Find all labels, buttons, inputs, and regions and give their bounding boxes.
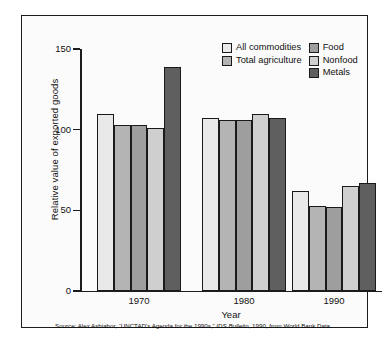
bar-1990-all-commodities xyxy=(292,191,309,291)
y-axis-tick-label: 0 xyxy=(25,286,71,296)
bar-1990-total-agriculture xyxy=(309,206,326,292)
x-axis-label-1980: 1980 xyxy=(214,295,274,306)
bar-1990-metals xyxy=(359,183,376,291)
bar-1980-total-agriculture xyxy=(219,120,236,291)
bar-1980-nonfood xyxy=(252,114,269,291)
legend-entry-nonfood: Nonfood xyxy=(309,56,358,66)
bar-1970-metals xyxy=(164,67,181,291)
chart-figure-frame: Relative value of exported goods 0501001… xyxy=(21,15,368,328)
legend-label: All commodities xyxy=(236,43,301,52)
y-axis-tick-label: 150 xyxy=(25,44,71,54)
legend-entry-metals: Metals xyxy=(309,68,358,78)
x-axis-title: Year xyxy=(80,309,382,320)
bar-1980-all-commodities xyxy=(202,118,219,291)
legend-entry-food: Food xyxy=(309,43,358,53)
x-axis-label-1970: 1970 xyxy=(109,295,169,306)
y-axis-tick xyxy=(73,210,80,211)
legend-label: Nonfood xyxy=(323,56,358,65)
legend-swatch-icon xyxy=(309,56,319,66)
bar-1970-nonfood xyxy=(147,128,164,291)
legend-entry-all-commodities: All commodities xyxy=(222,43,302,53)
legend-label: Total agriculture xyxy=(236,56,302,65)
y-axis-tick-label: 100 xyxy=(25,125,71,135)
y-axis-tick xyxy=(73,290,80,291)
bar-1990-food xyxy=(326,207,343,291)
x-axis-label-1990: 1990 xyxy=(304,295,364,306)
y-axis-tick-labels: 050100150 xyxy=(22,16,71,329)
bar-1970-food xyxy=(131,125,148,291)
legend-swatch-icon xyxy=(222,56,232,66)
legend-swatch-icon xyxy=(309,43,319,53)
source-journal-name: IDS Bulletin xyxy=(216,322,248,329)
y-axis-tick-label: 50 xyxy=(25,205,71,215)
y-axis-tick xyxy=(73,48,80,49)
bar-1970-total-agriculture xyxy=(114,125,131,291)
bar-1970-all-commodities xyxy=(97,114,114,291)
bar-1980-metals xyxy=(269,118,286,291)
legend-label: Food xyxy=(323,43,344,52)
source-note: Source: Alex Ashiabor, “UNCTAD's Agenda … xyxy=(55,322,381,329)
legend-swatch-icon xyxy=(222,43,232,53)
legend-entry-total-agriculture: Total agriculture xyxy=(222,56,302,66)
chart-legend: All commoditiesFoodTotal agricultureNonf… xyxy=(222,43,358,78)
legend-spacer xyxy=(222,68,302,78)
plot-area xyxy=(80,49,380,291)
bar-1980-food xyxy=(236,120,253,291)
y-axis-tick xyxy=(73,129,80,130)
legend-label: Metals xyxy=(323,68,350,77)
bar-1990-nonfood xyxy=(342,186,359,291)
legend-swatch-icon xyxy=(309,68,319,78)
